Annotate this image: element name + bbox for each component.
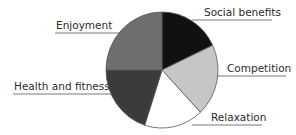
- label-social-benefits: Social benefits: [204, 6, 281, 18]
- pie-slice-enjoyment: [106, 12, 162, 70]
- pie-slices: [106, 12, 218, 128]
- pie-chart: Social benefits Competition Relaxation H…: [0, 0, 296, 135]
- label-enjoyment: Enjoyment: [56, 19, 112, 31]
- label-health-and-fitness: Health and fitness: [14, 80, 110, 92]
- label-competition: Competition: [227, 62, 291, 74]
- label-relaxation: Relaxation: [211, 111, 266, 123]
